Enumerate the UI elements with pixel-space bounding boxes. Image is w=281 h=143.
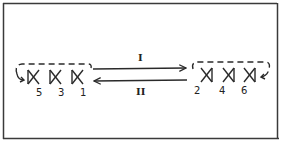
label-6: 6 bbox=[241, 85, 247, 96]
label-reaction-II: II bbox=[136, 86, 146, 97]
arrow-II bbox=[94, 80, 187, 81]
arrow-I bbox=[93, 68, 186, 69]
bowtie-glyph-1 bbox=[72, 70, 83, 84]
bowtie-glyph-5 bbox=[28, 70, 39, 84]
label-reaction-I: I bbox=[138, 52, 143, 63]
bowtie-glyph-3 bbox=[50, 70, 61, 84]
label-2: 2 bbox=[194, 85, 200, 96]
bowtie-glyph-4 bbox=[223, 68, 234, 82]
label-5: 5 bbox=[36, 87, 42, 98]
bowtie-glyph-6 bbox=[244, 68, 255, 82]
right-dashed-bracket bbox=[193, 62, 270, 72]
label-1: 1 bbox=[80, 87, 86, 98]
label-4: 4 bbox=[219, 85, 225, 96]
right-molecule-group bbox=[193, 62, 270, 82]
diagram-canvas: 5 3 1 I II 2 4 6 bbox=[0, 0, 281, 143]
label-3: 3 bbox=[58, 87, 64, 98]
left-molecule-group bbox=[16, 64, 91, 84]
frame-border bbox=[3, 3, 279, 139]
bowtie-glyph-2 bbox=[201, 68, 212, 82]
